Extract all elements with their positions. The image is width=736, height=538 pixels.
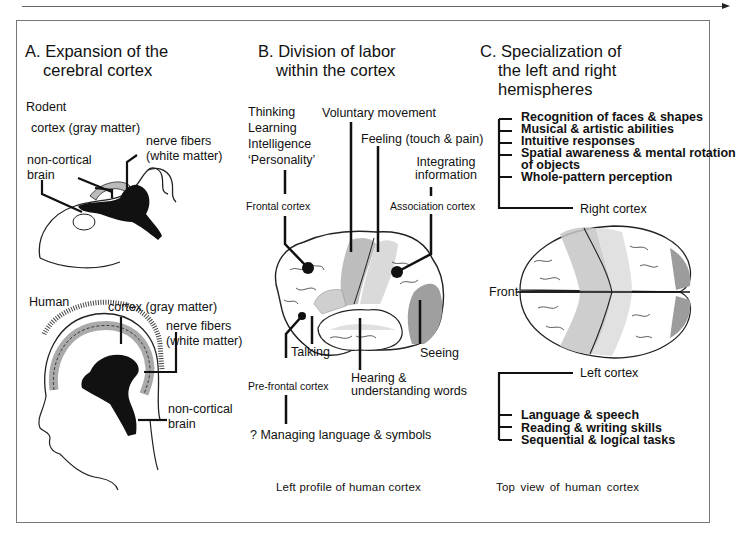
human-head-illustration: [39, 302, 176, 490]
panel-a-heading-line2: cerebral cortex: [25, 61, 168, 80]
hearing-line2: understanding words: [351, 385, 467, 398]
feeling-label: Feeling (touch & pain): [361, 132, 483, 147]
voluntary-movement-label: Voluntary movement: [322, 106, 436, 121]
left-function-sequential: Sequential & logical tasks: [521, 434, 675, 447]
left-cortex-label: Left cortex: [580, 366, 638, 381]
panel-a-heading: A. Expansion of the cerebral cortex: [25, 42, 168, 80]
human-fibers-line2: (white matter): [166, 334, 242, 349]
left-functions-list: Language & speech Reading & writing skil…: [521, 409, 675, 447]
front-label: Front: [489, 285, 518, 300]
association-cortex-label: Association cortex: [390, 200, 475, 213]
rodent-noncortical-label: non-cortical brain: [27, 153, 92, 183]
right-cortex-label: Right cortex: [580, 202, 647, 217]
rodent-fibers-line1: nerve fibers: [146, 134, 222, 149]
function-learning: Learning: [248, 120, 315, 136]
rodent-noncortical-line2: brain: [27, 168, 92, 183]
panel-c-caption: Top view of human cortex: [496, 481, 639, 493]
human-noncortical-line1: non-cortical: [168, 402, 233, 417]
frontal-functions-list: Thinking Learning Intelligence ‘Personal…: [248, 104, 315, 168]
function-personality: ‘Personality’: [248, 152, 315, 168]
panel-b-heading: B. Division of labor within the cortex: [258, 42, 396, 80]
panel-c-heading-line1: C. Specialization of: [480, 42, 621, 61]
rodent-fibers-label: nerve fibers (white matter): [146, 134, 222, 164]
talking-label: Talking: [291, 345, 330, 360]
rodent-cortex-label: cortex (gray matter): [31, 121, 140, 136]
rodent-noncortical-line1: non-cortical: [27, 153, 92, 168]
right-functions-list: Recognition of faces & shapes Musical & …: [521, 111, 736, 183]
human-cortex-label: cortex (gray matter): [108, 300, 217, 315]
panel-c-heading-line2: the left and right: [480, 61, 621, 80]
panel-b-heading-line1: B. Division of labor: [258, 42, 396, 61]
human-fibers-line1: nerve fibers: [166, 319, 242, 334]
panel-c-heading-line3: hemispheres: [480, 80, 621, 99]
human-fibers-label: nerve fibers (white matter): [166, 319, 242, 349]
human-noncortical-label: non-cortical brain: [168, 402, 233, 432]
human-title: Human: [29, 295, 69, 310]
integrating-line2: information: [415, 169, 477, 182]
rodent-fibers-line2: (white matter): [146, 149, 222, 164]
left-function-language: Language & speech: [521, 409, 675, 422]
managing-language-label: ? Managing language & symbols: [250, 428, 431, 443]
right-function-whole-pattern: Whole-pattern perception: [521, 171, 736, 183]
panel-b-caption: Left profile of human cortex: [276, 481, 421, 493]
panel-c-heading: C. Specialization of the left and right …: [480, 42, 621, 99]
panel-b-heading-line2: within the cortex: [258, 61, 396, 80]
hearing-label: Hearing & understanding words: [351, 372, 467, 398]
seeing-label: Seeing: [420, 346, 459, 361]
function-thinking: Thinking: [248, 104, 315, 120]
function-intelligence: Intelligence: [248, 136, 315, 152]
rodent-title: Rodent: [26, 100, 66, 115]
frontal-cortex-label: Frontal cortex: [246, 200, 310, 213]
integrating-label: Integrating information: [415, 156, 477, 182]
prefrontal-cortex-label: Pre-frontal cortex: [248, 380, 329, 393]
panel-a-heading-line1: A. Expansion of the: [25, 42, 168, 61]
human-noncortical-line2: brain: [168, 417, 233, 432]
